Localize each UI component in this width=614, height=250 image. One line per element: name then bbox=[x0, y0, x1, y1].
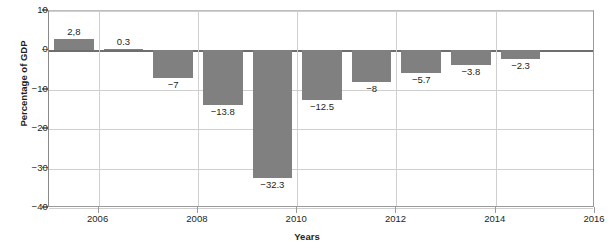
gridline-horizontal bbox=[49, 208, 593, 209]
gridline-vertical bbox=[496, 11, 497, 206]
y-axis-title: Percentage of GDP bbox=[18, 14, 29, 154]
x-tick-label: 2006 bbox=[75, 213, 121, 224]
y-tick-label: 0 bbox=[43, 43, 48, 54]
x-tick-label: 2016 bbox=[571, 213, 614, 224]
bar-value-label: 0.3 bbox=[93, 36, 153, 47]
bar-value-label: −32.3 bbox=[242, 179, 302, 190]
bar bbox=[54, 39, 94, 50]
bar-value-label: −12.5 bbox=[292, 101, 352, 112]
y-tick-label: 10 bbox=[37, 4, 48, 15]
bar bbox=[302, 50, 342, 99]
bar bbox=[104, 49, 144, 50]
y-tick-label: −10 bbox=[32, 83, 48, 94]
y-tick-label: −20 bbox=[32, 122, 48, 133]
x-tick-label: 2014 bbox=[472, 213, 518, 224]
plot-area: 2,80.3−7−13.8−32.3−12.5−8−5.7−3.8−2.3 bbox=[48, 10, 594, 207]
bar bbox=[451, 50, 491, 65]
bar bbox=[203, 50, 243, 104]
gridline-vertical bbox=[396, 11, 397, 206]
bar bbox=[352, 50, 392, 82]
y-tick-label: −40 bbox=[32, 201, 48, 212]
y-tick-label: −30 bbox=[32, 162, 48, 173]
bar-value-label: −13.8 bbox=[193, 106, 253, 117]
x-axis-title: Years bbox=[0, 231, 614, 242]
bar-value-label: −2.3 bbox=[491, 60, 551, 71]
gridline-horizontal bbox=[49, 169, 593, 170]
bar-chart: Percentage of GDP 2,80.3−7−13.8−32.3−12.… bbox=[0, 0, 614, 250]
x-tick-label: 2010 bbox=[273, 213, 319, 224]
bar bbox=[501, 50, 541, 59]
bar bbox=[253, 50, 293, 177]
bar bbox=[153, 50, 193, 78]
gridline-horizontal bbox=[49, 129, 593, 130]
gridline-horizontal bbox=[49, 11, 593, 12]
x-tick-label: 2012 bbox=[372, 213, 418, 224]
bar bbox=[401, 50, 441, 72]
x-tick-label: 2008 bbox=[174, 213, 220, 224]
bar-value-label: −7 bbox=[143, 79, 203, 90]
